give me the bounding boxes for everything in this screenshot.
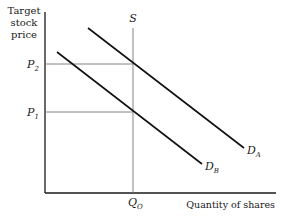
- supply-demand-chart: Target stock price S P2 P1 QO DA DB Quan…: [0, 0, 291, 218]
- p2-label: P2: [26, 58, 39, 73]
- supply-label: S: [129, 12, 137, 25]
- y-axis-label-line-3: price: [11, 29, 37, 40]
- x-axis-label: Quantity of shares: [186, 199, 275, 210]
- y-axis-label-line-2: stock: [11, 17, 39, 28]
- y-axis-label-line-1: Target: [8, 5, 41, 16]
- demand-curve-da: [88, 28, 244, 148]
- q0-label: QO: [128, 196, 143, 211]
- db-label: DB: [204, 160, 219, 175]
- demand-curve-db: [57, 52, 202, 164]
- da-label: DA: [246, 144, 261, 159]
- chart-svg: Target stock price S P2 P1 QO DA DB Quan…: [0, 0, 291, 218]
- p1-label: P1: [26, 106, 39, 121]
